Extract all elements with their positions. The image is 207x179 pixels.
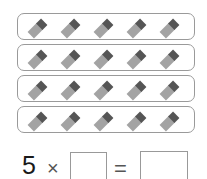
answer-box-2[interactable] [140, 151, 188, 179]
chocolate-bar-icon [127, 50, 147, 70]
chocolate-bar-icon [61, 50, 81, 70]
chocolate-bar-icon [160, 50, 180, 70]
equals-sign: = [114, 159, 127, 179]
chocolate-bar-icon [94, 81, 114, 101]
factor-number: 5 [22, 153, 36, 178]
group-4 [17, 106, 195, 133]
times-sign: × [47, 158, 59, 178]
chocolate-bar-icon [94, 112, 114, 132]
group-2 [17, 44, 195, 71]
answer-box-1[interactable] [70, 152, 107, 179]
chocolate-bar-icon [127, 81, 147, 101]
chocolate-bar-icon [28, 19, 48, 39]
chocolate-bar-icon [61, 19, 81, 39]
chocolate-bar-icon [94, 19, 114, 39]
chocolate-bar-icon [61, 81, 81, 101]
group-1 [17, 13, 195, 40]
chocolate-bar-icon [61, 112, 81, 132]
chocolate-bar-icon [94, 50, 114, 70]
chocolate-bar-icon [160, 19, 180, 39]
chocolate-bar-icon [160, 112, 180, 132]
chocolate-bar-icon [28, 81, 48, 101]
chocolate-bar-icon [28, 50, 48, 70]
group-3 [17, 75, 195, 102]
chocolate-bar-icon [127, 112, 147, 132]
chocolate-bar-icon [28, 112, 48, 132]
chocolate-bar-icon [127, 19, 147, 39]
chocolate-bar-icon [160, 81, 180, 101]
